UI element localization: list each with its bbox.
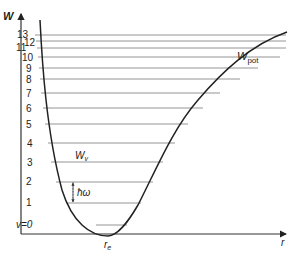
energy-level-label: 3 <box>27 157 33 168</box>
energy-level-label: 7 <box>26 88 32 99</box>
energy-level-label: 1 <box>26 197 32 208</box>
potential-curve <box>40 20 287 236</box>
vibrational-energy-label: Wv <box>75 150 88 162</box>
spacing-label: ħω <box>77 187 91 198</box>
equilibrium-distance-label: re <box>104 239 111 251</box>
energy-level-label: 9 <box>26 63 32 74</box>
potential-energy-diagram: v=012345678910111213 W r Wpot Wv ħω re <box>0 0 300 257</box>
energy-level-label: 6 <box>26 103 32 114</box>
energy-level-label: v=0 <box>16 219 33 230</box>
energy-level-label: 5 <box>26 119 32 130</box>
energy-level-label: 4 <box>27 138 33 149</box>
energy-level-label: 2 <box>26 176 32 187</box>
y-axis-label: W <box>3 10 15 22</box>
x-axis-label: r <box>281 237 285 248</box>
energy-level-label: 13 <box>17 29 29 40</box>
energy-level-label: 8 <box>26 74 32 85</box>
energy-level-label: 10 <box>22 52 34 63</box>
